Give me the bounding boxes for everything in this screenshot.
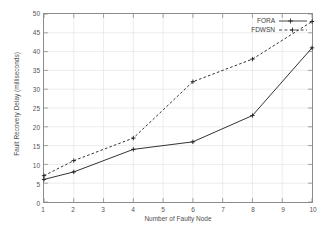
data-point-fdwsn-10 <box>310 19 314 23</box>
legend-sample-solid-line <box>278 17 308 25</box>
data-point-fora-2 <box>72 170 76 174</box>
legend-entry-fora: FORA <box>257 17 308 25</box>
x-tick-label-8: 8 <box>243 206 263 213</box>
legend-label-fdwsn: FDWSN <box>251 26 275 34</box>
chart-figure: 05101520253035404550 FORA FDWSN <box>0 0 334 235</box>
x-tick-label-2: 2 <box>63 206 83 213</box>
legend-sample-dashed-line <box>278 26 308 34</box>
data-point-fdwsn-8 <box>250 57 254 61</box>
x-tick-label-1: 1 <box>33 206 53 213</box>
data-point-fdwsn-2 <box>72 158 76 162</box>
x-tick-label-6: 6 <box>183 206 203 213</box>
x-tick-label-7: 7 <box>213 206 233 213</box>
x-tick-label-3: 3 <box>93 206 113 213</box>
x-axis-title: Number of Faulty Node <box>43 215 313 222</box>
series-line-fdwsn <box>44 22 312 176</box>
data-point-fdwsn-1 <box>42 174 46 178</box>
x-tick-label-4: 4 <box>123 206 143 213</box>
chart-legend: FORA FDWSN <box>251 17 308 34</box>
x-tick-label-10: 10 <box>303 206 323 213</box>
legend-label-fora: FORA <box>257 17 275 25</box>
data-point-fdwsn-4 <box>131 136 135 140</box>
plot-area: FORA FDWSN <box>43 13 313 203</box>
x-tick-label-5: 5 <box>153 206 173 213</box>
y-axis-title-wrap: Fault Recovery Delay (milliseconds) <box>11 9 23 199</box>
y-axis-title: Fault Recovery Delay (milliseconds) <box>11 9 23 199</box>
legend-entry-fdwsn: FDWSN <box>251 26 308 34</box>
data-point-fora-1 <box>42 177 46 181</box>
data-series-layer <box>44 14 312 202</box>
data-point-fora-4 <box>131 147 135 151</box>
series-line-fora <box>44 48 312 180</box>
data-point-fora-6 <box>191 140 195 144</box>
x-tick-label-9: 9 <box>273 206 293 213</box>
